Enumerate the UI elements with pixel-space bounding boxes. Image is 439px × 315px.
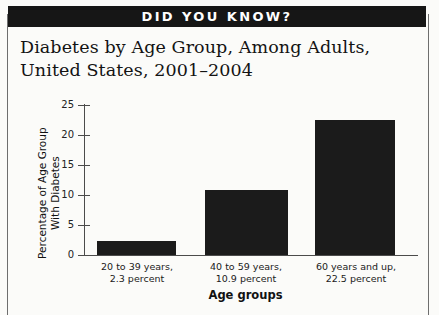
y-tick-10 — [78, 195, 90, 196]
y-tick-label-20: 20 — [48, 129, 74, 140]
y-tick-20 — [78, 135, 90, 136]
x-category-label-0: 20 to 39 years, 2.3 percent — [82, 261, 192, 286]
bar-60-and-up — [315, 120, 395, 255]
y-tick-label-10: 10 — [48, 189, 74, 200]
y-tick-25 — [78, 105, 90, 106]
x-axis-title: Age groups — [168, 288, 323, 302]
x-category-label-2: 60 years and up, 22.5 percent — [300, 261, 412, 286]
bar-40-to-59 — [205, 190, 288, 255]
x-category-label-2-line-2: 22.5 percent — [300, 273, 412, 285]
y-tick-0 — [78, 255, 90, 256]
y-tick-5 — [78, 225, 90, 226]
x-category-label-2-line-1: 60 years and up, — [300, 261, 412, 273]
y-tick-label-25: 25 — [48, 99, 74, 110]
bar-chart: Percentage of Age Group With Diabetes 0 … — [0, 0, 439, 315]
x-category-label-1-line-2: 10.9 percent — [191, 273, 301, 285]
page: DID YOU KNOW? Diabetes by Age Group, Amo… — [0, 0, 439, 315]
y-tick-label-0: 0 — [48, 249, 74, 260]
bar-20-to-39 — [97, 241, 176, 255]
x-category-label-0-line-2: 2.3 percent — [82, 273, 192, 285]
x-category-label-1-line-1: 40 to 59 years, — [191, 261, 301, 273]
x-category-label-1: 40 to 59 years, 10.9 percent — [191, 261, 301, 286]
y-tick-label-15: 15 — [48, 159, 74, 170]
x-axis-line — [84, 255, 418, 256]
y-tick-15 — [78, 165, 90, 166]
y-axis-line — [84, 104, 85, 256]
x-category-label-0-line-1: 20 to 39 years, — [82, 261, 192, 273]
y-tick-label-5: 5 — [48, 219, 74, 230]
